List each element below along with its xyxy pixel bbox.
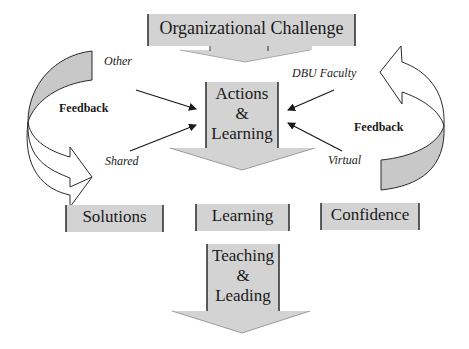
input-arrow-shared xyxy=(130,125,196,151)
actions-line: Actions xyxy=(206,84,278,104)
input-label-virtual: Virtual xyxy=(328,153,361,168)
ampersand-line: & xyxy=(206,104,278,124)
input-label-shared: Shared xyxy=(105,154,139,169)
actions-learning-label: Actions & Learning xyxy=(206,84,278,144)
feedback-label-left: Feedback xyxy=(59,101,108,116)
outcome-label-confidence: Confidence xyxy=(321,205,419,225)
feedback-loop-left-arrow xyxy=(27,51,92,207)
outcome-label-learning: Learning xyxy=(196,206,289,226)
outcome-label-solutions: Solutions xyxy=(66,207,163,227)
learning-line: Learning xyxy=(206,124,278,144)
input-arrow-dbu-faculty xyxy=(288,90,334,110)
teaching-leading-label: Teaching & Leading xyxy=(207,246,279,306)
feedback-loop-right-arrow xyxy=(380,46,444,190)
feedback-label-right: Feedback xyxy=(354,120,403,135)
input-arrow-virtual xyxy=(288,123,342,151)
input-label-dbu-faculty: DBU Faculty xyxy=(292,66,356,81)
input-arrow-other xyxy=(136,90,196,109)
organizational-challenge-label: Organizational Challenge xyxy=(148,18,355,39)
ampersand-line: & xyxy=(207,266,279,286)
teaching-line: Teaching xyxy=(207,246,279,266)
input-label-other: Other xyxy=(104,54,132,69)
leading-line: Leading xyxy=(207,286,279,306)
